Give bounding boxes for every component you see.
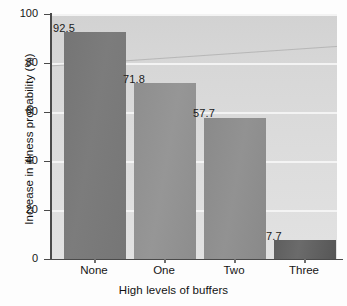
value-label-two: 57.7 <box>173 107 235 119</box>
y-tick-100 <box>44 14 50 16</box>
x-tick-none <box>94 259 96 263</box>
x-tick-three <box>304 259 306 263</box>
bar-none <box>64 32 126 259</box>
x-tick-two <box>234 259 236 263</box>
value-label-one: 71.8 <box>103 73 165 85</box>
x-tick-label-two: Two <box>194 264 274 276</box>
y-axis-label: Increase in illness probability (%) <box>23 14 35 264</box>
x-axis-line <box>44 259 343 261</box>
x-tick-label-none: None <box>54 264 134 276</box>
gridline-100 <box>51 14 337 16</box>
plot-area <box>51 14 337 259</box>
x-tick-label-three: Three <box>264 264 344 276</box>
x-tick-one <box>164 259 166 263</box>
x-axis-label: High levels of buffers <box>0 284 347 296</box>
value-label-none: 92.5 <box>33 22 95 34</box>
y-tick-0 <box>44 259 50 261</box>
bar-three <box>274 240 336 259</box>
y-tick-40 <box>44 161 50 163</box>
x-tick-label-one: One <box>124 264 204 276</box>
y-axis-line <box>50 13 52 260</box>
y-tick-80 <box>44 63 50 65</box>
bar-chart-figure: 92.5 71.8 57.7 7.7 100 80 60 40 20 0 Non… <box>0 0 347 306</box>
y-tick-20 <box>44 210 50 212</box>
value-label-three: 7.7 <box>243 230 305 242</box>
y-tick-60 <box>44 112 50 114</box>
